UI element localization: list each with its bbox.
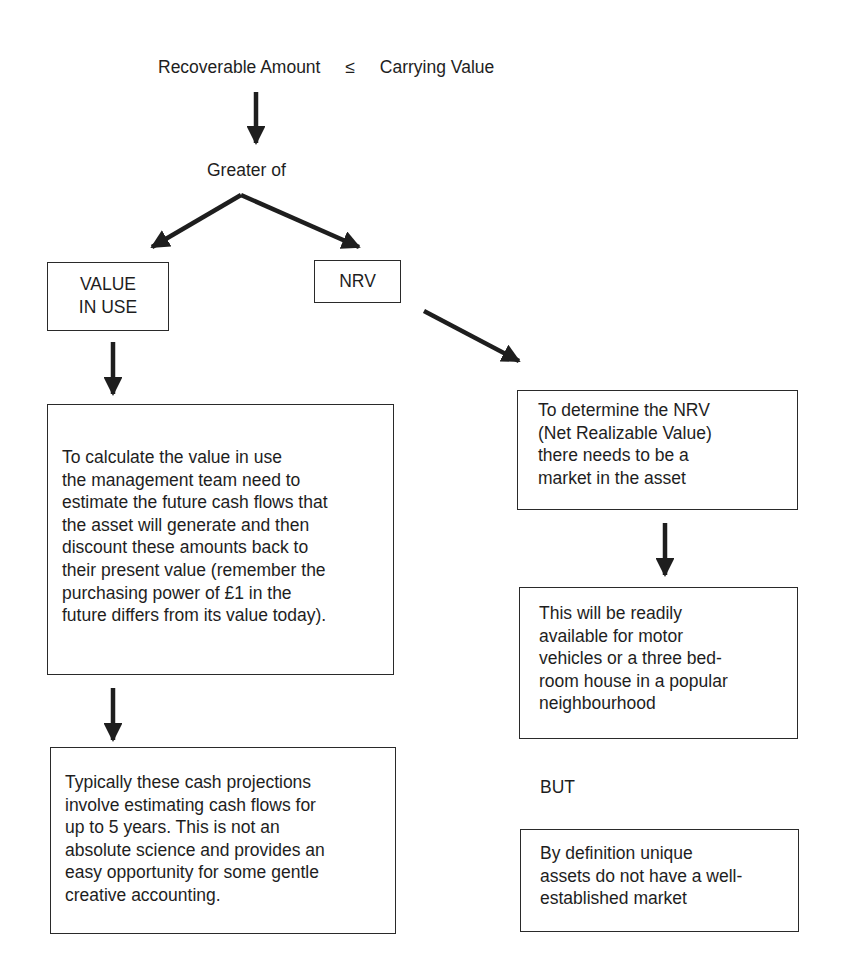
cash-projections-box: Typically these cash projections involve… (50, 747, 396, 934)
market-availability-text: This will be readily available for motor… (539, 602, 728, 715)
nrv-box: NRV (314, 260, 401, 303)
arrow-down-right-icon (241, 195, 359, 247)
value-in-use-box: VALUE IN USE (47, 262, 169, 331)
market-availability-box: This will be readily available for motor… (519, 587, 798, 739)
value-in-use-label: VALUE IN USE (48, 273, 168, 319)
nrv-label: NRV (315, 270, 400, 293)
but-label: BUT (540, 776, 575, 799)
arrow-down-right-icon (424, 311, 519, 361)
unique-assets-text: By definition unique assets do not have … (540, 842, 742, 910)
unique-assets-box: By definition unique assets do not have … (520, 829, 799, 932)
value-in-use-explanation-box: To calculate the value in use the manage… (47, 404, 394, 675)
value-in-use-explanation-text: To calculate the value in use the manage… (62, 446, 328, 627)
nrv-explanation-box: To determine the NRV (Net Realizable Val… (517, 390, 798, 510)
nrv-explanation-text: To determine the NRV (Net Realizable Val… (538, 399, 712, 489)
cash-projections-text: Typically these cash projections involve… (65, 771, 325, 907)
arrow-down-left-icon (152, 195, 241, 247)
